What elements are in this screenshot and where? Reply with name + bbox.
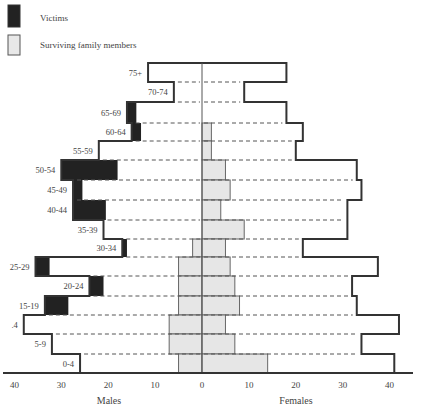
bars-group — [36, 102, 268, 373]
bar-male-surviving — [169, 315, 202, 334]
age-label: 35-39 — [78, 225, 98, 235]
bar-male-surviving — [179, 354, 202, 373]
legend-swatch-victims — [8, 5, 20, 27]
age-label: 45-49 — [47, 185, 67, 195]
bar-male-surviving — [179, 257, 202, 276]
bar-male-victims — [132, 123, 141, 141]
bar-female-surviving — [202, 354, 268, 373]
bar-female-surviving — [202, 315, 225, 334]
legend-label-victims: Victims — [40, 13, 68, 23]
x-tick-label: 30 — [57, 380, 67, 390]
bar-male-victims — [73, 180, 82, 200]
age-label: 75+ — [129, 68, 143, 78]
x-tick-label: 10 — [244, 380, 254, 390]
bar-female-surviving — [202, 257, 230, 276]
x-tick-label: 20 — [104, 380, 114, 390]
age-label: .4 — [11, 320, 18, 330]
x-tick-labels: 40302010010203040 — [10, 380, 395, 390]
x-tick-label: 0 — [200, 380, 205, 390]
x-tick-label: 20 — [291, 380, 301, 390]
bar-male-victims — [89, 276, 103, 296]
bar-male-victims — [45, 296, 68, 315]
bar-female-surviving — [202, 276, 235, 296]
bar-male-victims — [73, 200, 106, 220]
age-label: 30-34 — [96, 243, 117, 253]
x-tick-label: 10 — [151, 380, 161, 390]
age-label: 60-64 — [106, 127, 127, 137]
x-tick-label: 40 — [10, 380, 20, 390]
female-outline — [202, 63, 399, 373]
bar-female-surviving — [202, 160, 225, 180]
age-label: 15-19 — [19, 301, 39, 311]
bar-female-surviving — [202, 220, 244, 239]
x-label-females: Females — [279, 395, 312, 406]
age-label: 55-59 — [73, 146, 93, 156]
bar-female-surviving — [202, 123, 211, 141]
age-label: 25-29 — [10, 262, 30, 272]
bar-male-surviving — [169, 334, 202, 354]
bar-male-victims — [127, 102, 136, 123]
age-label: 20-24 — [64, 281, 85, 291]
age-label: 0-4 — [63, 359, 75, 369]
legend: Victims Surviving family members — [8, 5, 137, 55]
bar-female-surviving — [202, 296, 240, 315]
x-tick-label: 40 — [385, 380, 395, 390]
population-pyramid-chart: Victims Surviving family members 75+70-7… — [0, 0, 423, 414]
age-label: 40-44 — [47, 205, 68, 215]
age-label: 5-9 — [35, 339, 46, 349]
bar-male-surviving — [179, 276, 202, 296]
bar-female-surviving — [202, 200, 221, 220]
bar-female-surviving — [202, 180, 230, 200]
age-label: 65-69 — [101, 108, 121, 118]
x-label-males: Males — [97, 395, 122, 406]
bar-male-victims — [61, 160, 117, 180]
age-label: 70-74 — [148, 87, 169, 97]
age-label: 50-54 — [35, 165, 56, 175]
x-tick-label: 30 — [338, 380, 348, 390]
legend-swatch-surviving — [8, 35, 20, 55]
bar-female-surviving — [202, 239, 225, 257]
bar-female-surviving — [202, 334, 235, 354]
bar-male-surviving — [179, 296, 202, 315]
legend-label-surviving: Surviving family members — [40, 40, 137, 50]
bar-male-victims — [36, 257, 50, 276]
bar-female-surviving — [202, 141, 211, 160]
bar-male-surviving — [193, 239, 202, 257]
